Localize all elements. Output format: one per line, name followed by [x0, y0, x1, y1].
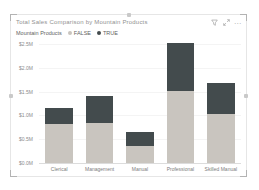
y-tick-label: $2.0M [19, 65, 33, 71]
resize-handle-right[interactable] [244, 94, 248, 98]
bar-segment-true[interactable] [126, 132, 153, 146]
x-tick-label: Clerical [39, 166, 79, 172]
selection-corner-bottom-left[interactable] [10, 170, 17, 177]
bar-segment-false[interactable] [126, 146, 153, 163]
legend-item-label: FALSE [74, 30, 91, 36]
bar-slot [39, 44, 79, 163]
visual-card[interactable]: Total Sales Comparison by Mountain Produ… [10, 14, 247, 177]
y-tick-label: $2.5M [19, 41, 33, 47]
bar-segment-false[interactable] [86, 123, 113, 163]
bar-slot [79, 44, 119, 163]
stacked-bar-management[interactable] [86, 96, 113, 163]
legend-items: FALSETRUE [68, 30, 118, 36]
resize-handle-top[interactable] [127, 13, 131, 17]
bar-segment-true[interactable] [45, 108, 72, 124]
legend: Mountain Products FALSETRUE [16, 30, 118, 36]
y-axis: $0.0M$0.5M$1.0M$1.5M$2.0M$2.5M [11, 44, 36, 163]
legend-dot [97, 31, 101, 35]
y-tick-label: $0.0M [19, 160, 33, 166]
canvas: Total Sales Comparison by Mountain Produ… [0, 0, 259, 190]
focus-mode-icon[interactable] [222, 18, 230, 26]
stacked-bar-skilled-manual[interactable] [207, 83, 234, 163]
plot-area [39, 44, 241, 164]
legend-item-false[interactable]: FALSE [68, 30, 91, 36]
bar-segment-true[interactable] [167, 43, 194, 92]
y-tick-label: $1.5M [19, 89, 33, 95]
bar-segment-false[interactable] [207, 114, 234, 163]
bar-slot [160, 44, 200, 163]
bar-slot [201, 44, 241, 163]
y-tick-label: $0.5M [19, 136, 33, 142]
filter-icon[interactable] [210, 18, 218, 26]
x-axis: ClericalManagementManualProfessionalSkil… [39, 166, 241, 172]
legend-dot [68, 31, 72, 35]
selection-corner-bottom-right[interactable] [240, 170, 247, 177]
bar-segment-false[interactable] [167, 91, 194, 163]
bars [39, 44, 241, 163]
x-tick-label: Skilled Manual [201, 166, 241, 172]
bar-slot [120, 44, 160, 163]
stacked-bar-manual[interactable] [126, 132, 153, 163]
more-options-icon[interactable]: ... [234, 18, 242, 26]
visual-header: ... [210, 18, 242, 26]
bar-segment-true[interactable] [86, 96, 113, 123]
legend-title: Mountain Products [16, 30, 62, 36]
stacked-bar-clerical[interactable] [45, 108, 72, 163]
y-tick-label: $1.0M [19, 112, 33, 118]
legend-item-label: TRUE [103, 30, 118, 36]
bar-segment-false[interactable] [45, 124, 72, 163]
stacked-bar-professional[interactable] [167, 43, 194, 163]
x-tick-label: Manual [120, 166, 160, 172]
x-tick-label: Management [79, 166, 119, 172]
visual-title: Total Sales Comparison by Mountain Produ… [16, 19, 148, 25]
x-tick-label: Professional [160, 166, 200, 172]
legend-item-true[interactable]: TRUE [97, 30, 118, 36]
bar-segment-true[interactable] [207, 83, 234, 114]
